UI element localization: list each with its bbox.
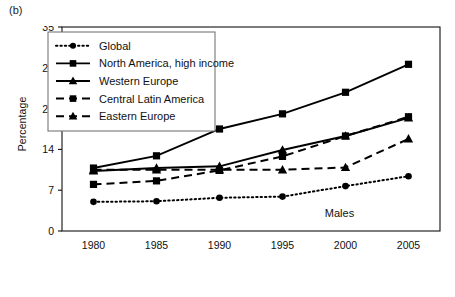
data-point-marker <box>153 152 160 159</box>
males-annotation: Males <box>325 207 355 219</box>
legend-label: Central Latin America <box>99 93 205 105</box>
legend-marker-sample <box>70 60 77 67</box>
data-point-marker <box>153 177 160 184</box>
data-point-marker <box>342 183 349 190</box>
line-chart-svg: 0714212835 198019851990199520002005 Male… <box>41 26 446 263</box>
y-tick-label: 14 <box>42 143 54 155</box>
legend-label: Global <box>99 40 131 52</box>
data-point-marker <box>153 198 160 205</box>
data-point-marker <box>279 110 286 117</box>
y-tick-label: 7 <box>48 184 54 196</box>
data-point-marker <box>405 61 412 68</box>
data-point-marker <box>342 89 349 96</box>
chart-annotation-group: Males <box>325 207 355 219</box>
data-point-marker <box>216 194 223 201</box>
x-axis-ticks: 198019851990199520002005 <box>82 239 421 251</box>
data-point-marker <box>342 132 349 139</box>
series-eastern-europe <box>89 134 413 173</box>
x-tick-label: 1995 <box>271 239 295 251</box>
legend-marker-sample <box>70 43 76 49</box>
x-tick-label: 1980 <box>82 239 106 251</box>
series-line <box>94 176 409 202</box>
x-tick-label: 2000 <box>334 239 358 251</box>
legend-label: Eastern Europe <box>99 110 175 122</box>
data-point-marker <box>279 153 286 160</box>
plot-area: 0714212835 198019851990199520002005 Male… <box>41 26 446 263</box>
panel-label: (b) <box>9 4 22 16</box>
series-global <box>90 173 412 205</box>
legend-label: Western Europe <box>99 75 178 87</box>
legend-label: North America, high income <box>99 57 234 69</box>
x-tick-label: 1985 <box>145 239 169 251</box>
data-point-marker <box>405 173 412 180</box>
x-tick-label: 2005 <box>397 239 421 251</box>
data-point-marker <box>279 193 286 200</box>
y-tick-label: 0 <box>48 225 54 237</box>
y-axis-label: Percentage <box>16 84 28 164</box>
data-point-marker <box>90 199 97 206</box>
data-point-marker <box>216 125 223 132</box>
data-point-marker <box>90 181 97 188</box>
data-point-marker <box>404 134 413 142</box>
chart-legend: GlobalNorth America, high incomeWestern … <box>48 32 234 131</box>
chart-figure: (b) Percentage 0714212835 19801985199019… <box>0 0 455 297</box>
x-tick-label: 1990 <box>208 239 232 251</box>
series-line <box>94 139 409 170</box>
legend-marker-sample <box>70 95 77 102</box>
data-point-marker <box>405 113 412 120</box>
